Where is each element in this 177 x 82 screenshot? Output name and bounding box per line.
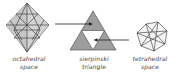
tetrahedral-label-line2: space xyxy=(124,63,176,71)
sierpinski-triangle-label: sierpinski triangle xyxy=(68,55,120,71)
sierpinski-label-line2: triangle xyxy=(68,63,120,71)
tetrahedral-label-line1: tetrahedral xyxy=(124,55,176,63)
octahedral-label-line1: octahedral xyxy=(4,55,54,63)
octahedral-label-line2: space xyxy=(4,63,54,71)
tetrahedral-space-label: tetrahedral space xyxy=(124,55,176,71)
octahedron-icon xyxy=(6,3,49,52)
tetrahedral-polyhedron-icon xyxy=(137,22,167,51)
sierpinski-triangle-icon xyxy=(70,11,116,50)
sierpinski-label-line1: sierpinski xyxy=(68,55,120,63)
diagram: octahedral space sierpinski triangle tet… xyxy=(0,0,177,82)
octahedral-space-label: octahedral space xyxy=(4,55,54,71)
